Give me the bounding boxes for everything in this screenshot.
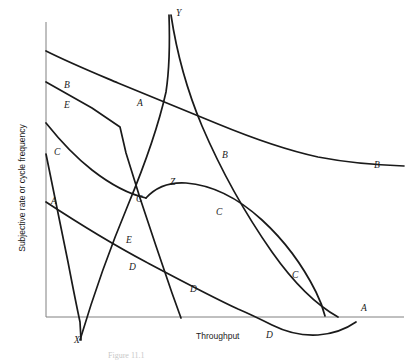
curve-label-z: Z bbox=[170, 177, 176, 187]
axis-origin-label-x: X bbox=[73, 335, 81, 345]
curve-a-rising bbox=[80, 15, 169, 340]
curve-label-a-right: A bbox=[360, 303, 367, 313]
y-axis-title: Subjective rate or cycle frequency bbox=[17, 103, 27, 273]
curve-label-d-right: D bbox=[265, 330, 273, 340]
curve-label-c-right: C bbox=[292, 270, 299, 280]
curve-y-descending bbox=[171, 15, 338, 317]
curve-label-b-mid: B bbox=[222, 150, 228, 160]
curve-label-d-mid: D bbox=[189, 284, 197, 294]
curve-label-b-right: B bbox=[374, 160, 380, 170]
curve-c-upper bbox=[46, 123, 146, 198]
curve-d bbox=[46, 202, 356, 335]
x-axis-title: Throughput bbox=[196, 331, 239, 341]
curve-b bbox=[46, 51, 404, 166]
curve-label-c-mid: C bbox=[216, 207, 223, 217]
curve-label-a-upper: A bbox=[136, 98, 143, 108]
chart-canvas: B E A Y C A C Z B C B E D C D A D X bbox=[0, 0, 408, 360]
curve-label-y-apex: Y bbox=[176, 8, 183, 18]
curve-label-b-left: B bbox=[64, 80, 70, 90]
curve-e bbox=[46, 82, 181, 318]
figure-caption: Figure 11.1 bbox=[108, 351, 145, 360]
curve-label-d-left: D bbox=[128, 262, 136, 272]
curve-label-c-zstart: C bbox=[136, 194, 143, 204]
curve-a-left bbox=[46, 154, 81, 340]
curve-label-c-left: C bbox=[54, 147, 61, 157]
curve-label-e-left: E bbox=[63, 100, 70, 110]
curve-label-e-lower: E bbox=[125, 235, 132, 245]
curve-label-a-left: A bbox=[50, 196, 57, 206]
figure-container: B E A Y C A C Z B C B E D C D A D X Subj… bbox=[0, 0, 408, 360]
